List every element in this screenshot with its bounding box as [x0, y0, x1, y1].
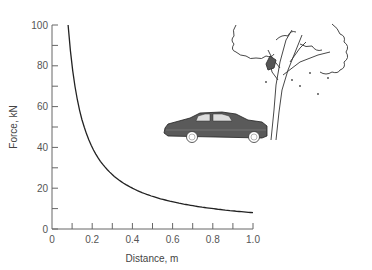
- x-tick-label: 0.2: [85, 234, 99, 245]
- x-tick-labels: 00.20.40.60.81.0: [49, 234, 260, 245]
- y-axis-title: Force, kN: [8, 105, 19, 148]
- y-tick-label: 40: [37, 142, 49, 153]
- y-tick-label: 0: [42, 224, 48, 235]
- car-crash-illustration: [164, 24, 348, 143]
- y-tick-label: 100: [31, 20, 48, 31]
- x-axis: [52, 223, 253, 229]
- force-distance-chart: 020406080100 00.20.40.60.81.0 Distance, …: [0, 0, 372, 270]
- car-icon: [164, 112, 267, 143]
- x-axis-title: Distance, m: [126, 253, 179, 264]
- y-tick-labels: 020406080100: [31, 20, 48, 235]
- x-tick-label: 0.8: [206, 234, 220, 245]
- y-axis: [52, 25, 58, 229]
- x-tick-label: 0.6: [166, 234, 180, 245]
- y-tick-label: 20: [37, 183, 49, 194]
- x-tick-label: 1.0: [246, 234, 260, 245]
- x-tick-label: 0.4: [125, 234, 139, 245]
- x-tick-label: 0: [49, 234, 55, 245]
- y-tick-label: 60: [37, 101, 49, 112]
- y-tick-label: 80: [37, 60, 49, 71]
